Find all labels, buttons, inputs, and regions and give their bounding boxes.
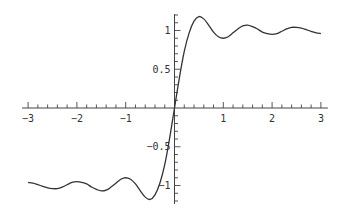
x-tick-label: 1 xyxy=(220,113,226,124)
x-tick-label: −2 xyxy=(71,113,83,124)
x-tick-label: 3 xyxy=(318,113,324,124)
y-tick-label: −1 xyxy=(158,180,170,191)
y-tick-label: −0.5 xyxy=(146,141,170,152)
x-tick-label: 2 xyxy=(269,113,275,124)
x-tick-label: −3 xyxy=(22,113,34,124)
y-tick-label: 1 xyxy=(164,25,170,36)
axes xyxy=(22,14,328,204)
y-tick-label: 0.5 xyxy=(152,64,170,75)
x-tick-label: −1 xyxy=(120,113,132,124)
plot-area: −3−2−1123−1−0.50.51 xyxy=(0,0,344,219)
